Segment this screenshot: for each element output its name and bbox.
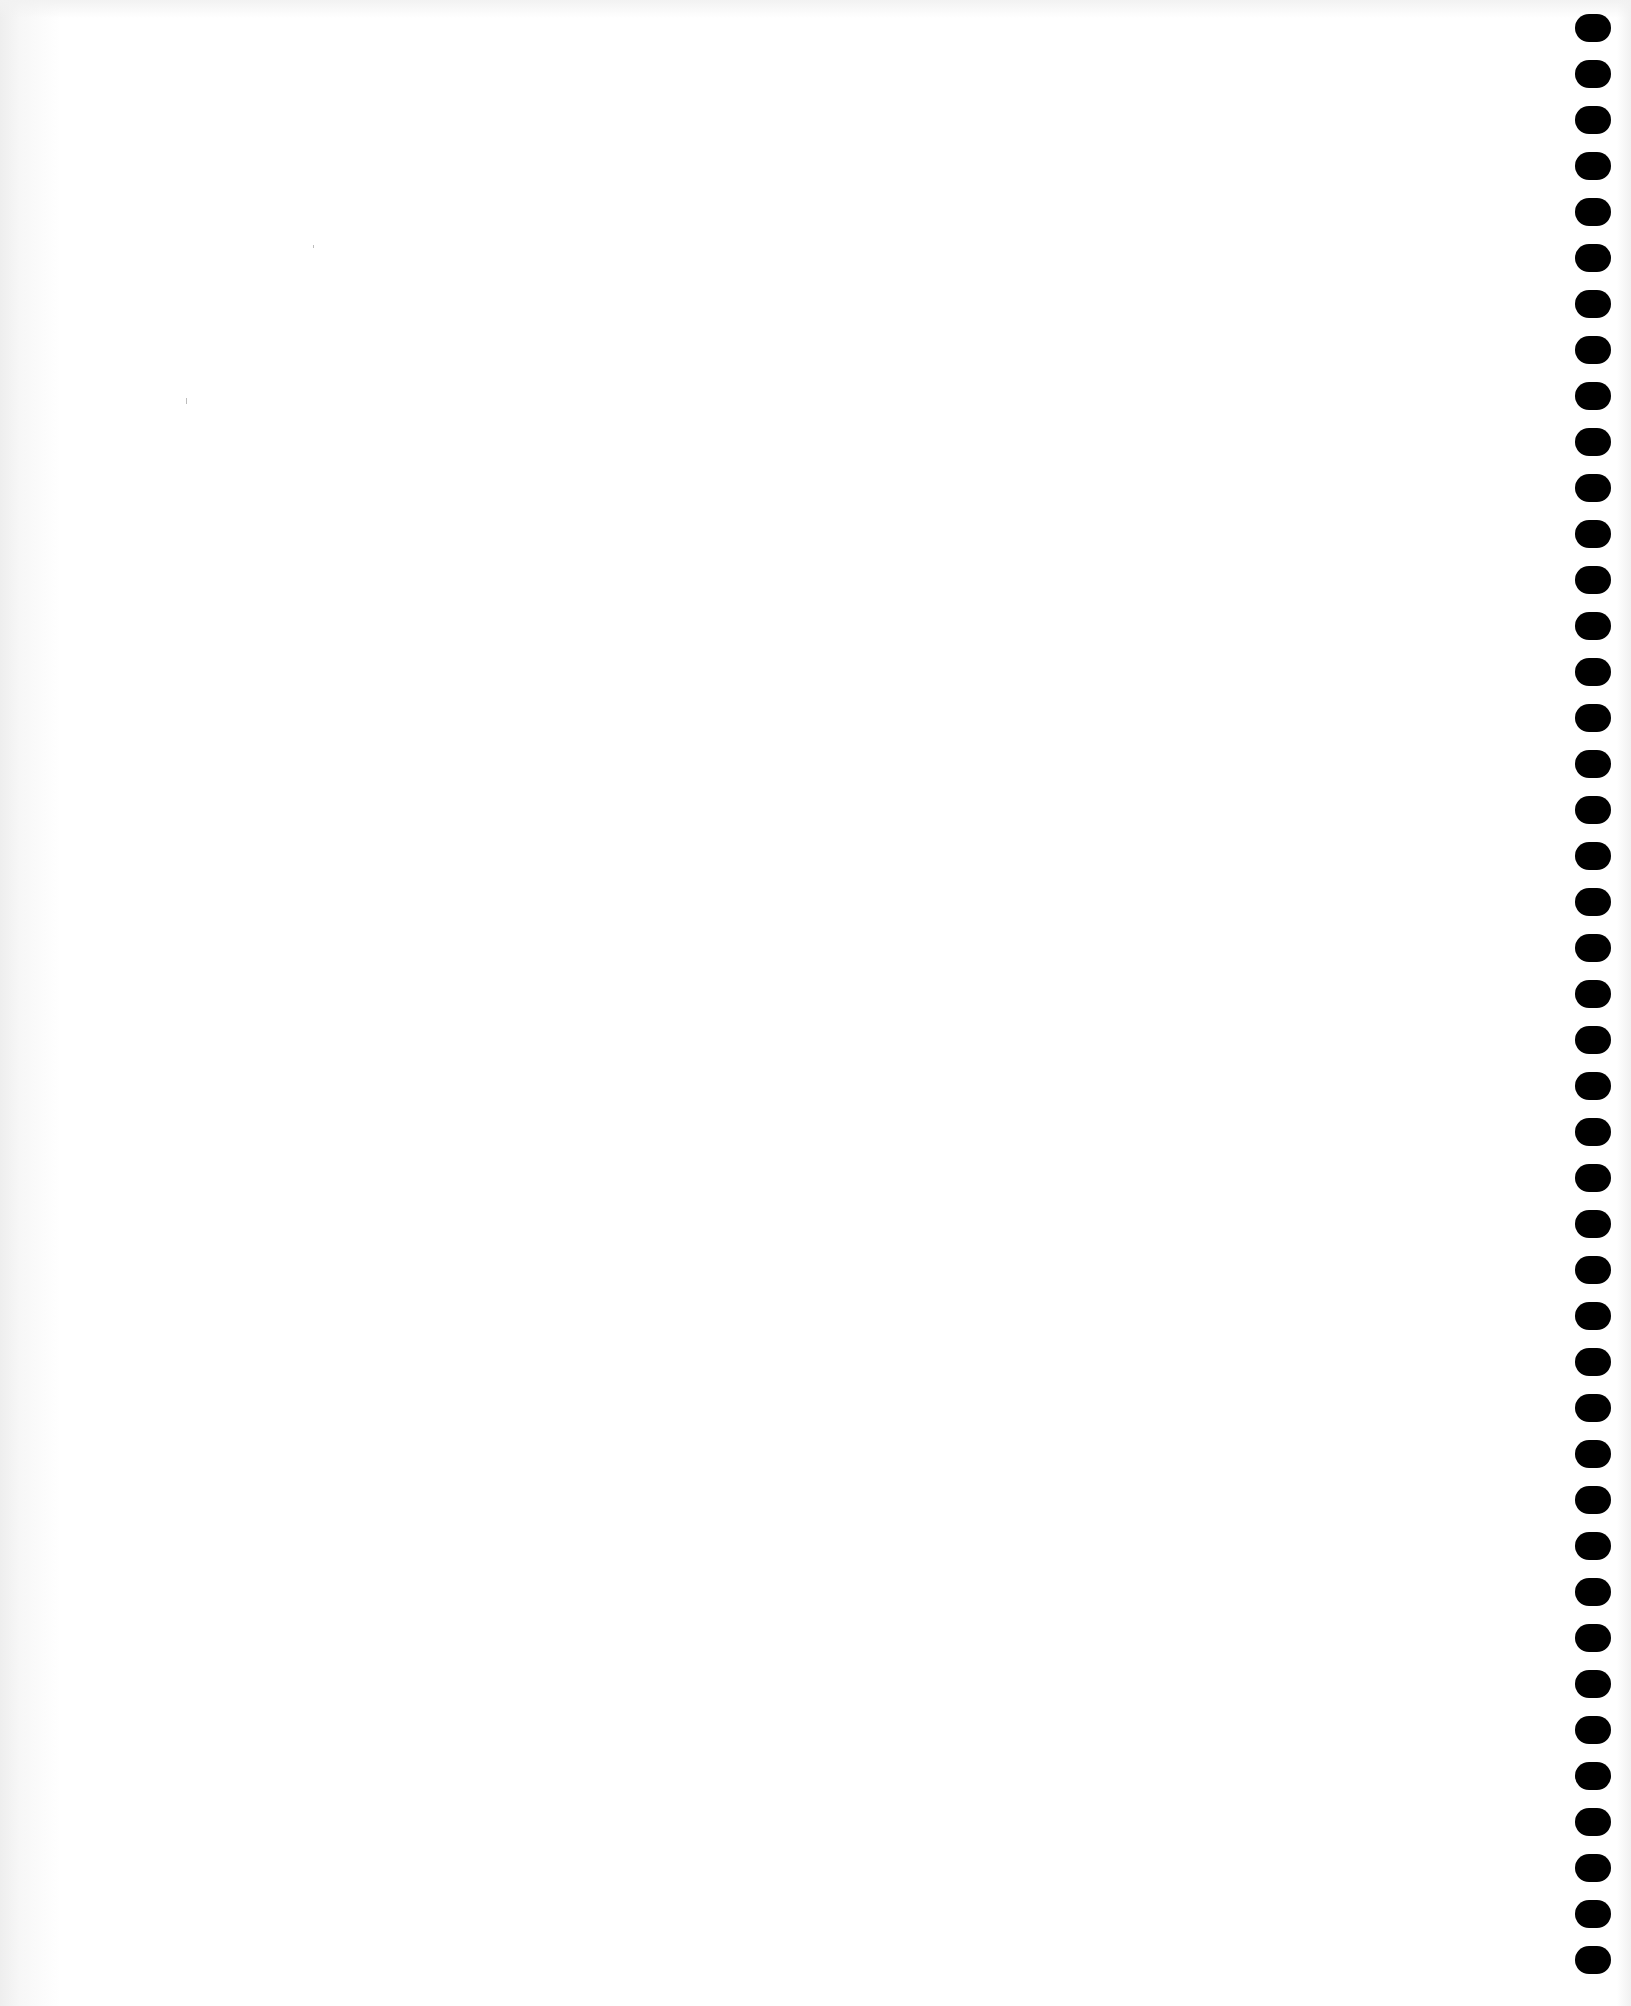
binding-hole <box>1575 1762 1611 1790</box>
binding-hole <box>1575 60 1611 88</box>
binding-hole <box>1575 1348 1611 1376</box>
binding-hole <box>1575 1256 1611 1284</box>
binding-hole <box>1575 934 1611 962</box>
binding-hole <box>1575 290 1611 318</box>
binding-hole <box>1575 474 1611 502</box>
blank-page <box>0 0 1631 2006</box>
binding-hole <box>1575 152 1611 180</box>
binding-hole <box>1575 1946 1611 1974</box>
binding-hole <box>1575 612 1611 640</box>
binding-hole <box>1575 1486 1611 1514</box>
scan-right-edge <box>1617 0 1631 2006</box>
binding-hole <box>1575 1670 1611 1698</box>
paper-speck <box>313 245 314 248</box>
spiral-binding-holes <box>1575 0 1615 2006</box>
binding-hole <box>1575 1716 1611 1744</box>
binding-hole <box>1575 842 1611 870</box>
binding-hole <box>1575 566 1611 594</box>
binding-hole <box>1575 796 1611 824</box>
binding-hole <box>1575 1854 1611 1882</box>
binding-hole <box>1575 888 1611 916</box>
binding-hole <box>1575 520 1611 548</box>
scan-top-shadow <box>0 0 1631 18</box>
binding-hole <box>1575 1072 1611 1100</box>
binding-hole <box>1575 1808 1611 1836</box>
binding-hole <box>1575 1440 1611 1468</box>
binding-hole <box>1575 1624 1611 1652</box>
binding-hole <box>1575 658 1611 686</box>
binding-hole <box>1575 1578 1611 1606</box>
binding-hole <box>1575 704 1611 732</box>
binding-hole <box>1575 1900 1611 1928</box>
binding-hole <box>1575 1394 1611 1422</box>
binding-hole <box>1575 980 1611 1008</box>
binding-hole <box>1575 244 1611 272</box>
binding-hole <box>1575 336 1611 364</box>
binding-hole <box>1575 1210 1611 1238</box>
binding-hole <box>1575 1118 1611 1146</box>
paper-speck <box>186 398 187 404</box>
binding-hole <box>1575 1302 1611 1330</box>
binding-hole <box>1575 106 1611 134</box>
binding-hole <box>1575 1164 1611 1192</box>
binding-hole <box>1575 382 1611 410</box>
binding-hole <box>1575 428 1611 456</box>
binding-hole <box>1575 750 1611 778</box>
binding-hole <box>1575 14 1611 42</box>
binding-hole <box>1575 198 1611 226</box>
binding-hole <box>1575 1532 1611 1560</box>
binding-hole <box>1575 1026 1611 1054</box>
